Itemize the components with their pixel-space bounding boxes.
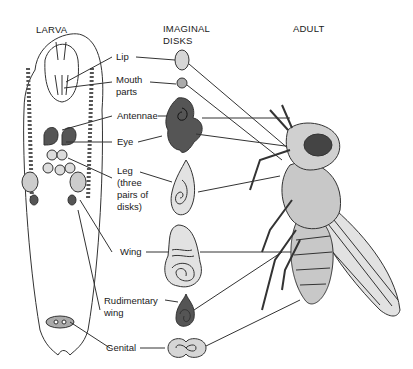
label-eye: Eye <box>117 136 133 148</box>
disk-eye-antennae <box>166 98 202 153</box>
adult-eye <box>304 134 332 156</box>
label-mouth-line1: Mouth <box>116 74 142 86</box>
diagram-drawing <box>0 0 413 369</box>
larva-header: LARVA <box>36 24 67 36</box>
disk-lip <box>175 50 189 70</box>
label-mouth-line2: parts <box>116 86 137 98</box>
disk-genital <box>168 339 206 358</box>
label-antennae: Antennae <box>117 110 158 122</box>
label-rudimentary-line1: Rudimentary <box>104 295 158 307</box>
disk-leg <box>171 160 194 215</box>
label-leg-line4: disks) <box>117 201 142 213</box>
label-leg-line1: Leg <box>117 165 133 177</box>
imaginal-disks-header-line1: IMAGINAL <box>163 23 210 35</box>
imaginal-disks-header-line2: DISKS <box>163 35 193 47</box>
adult-header: ADULT <box>293 23 324 35</box>
label-leg-line2: (three <box>117 177 142 189</box>
adult-thorax <box>282 162 341 228</box>
label-wing: Wing <box>120 246 142 258</box>
label-genital: Genital <box>106 342 136 354</box>
disk-mouthparts <box>177 78 187 88</box>
label-lip: Lip <box>116 51 129 63</box>
label-leg-line3: pairs of <box>117 189 148 201</box>
label-rudimentary-line2: wing <box>104 307 124 319</box>
